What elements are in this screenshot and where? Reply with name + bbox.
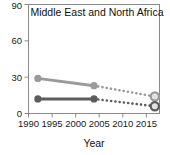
y-tick-label-90: 90	[11, 0, 22, 11]
x-tick-label-2015: 2015	[136, 118, 157, 129]
x-tick-label-2000: 2000	[65, 118, 86, 129]
x-axis-title: Year	[83, 137, 105, 149]
x-tick-label-1990: 1990	[18, 118, 39, 129]
upper-series-marker-2015	[151, 92, 159, 100]
upper-series-marker-2002	[90, 82, 97, 89]
chart-title: Middle East and North Africa	[30, 6, 163, 18]
x-tick-label-2010: 2010	[112, 118, 133, 129]
x-tick-label-1995: 1995	[42, 118, 63, 129]
x-axis-ticks	[29, 114, 147, 118]
y-axis-ticks	[25, 5, 29, 114]
lower-series-marker-2015	[151, 102, 159, 110]
chart-container: 0 30 60 90 1990 1995 2000 2005 2010 2015…	[0, 0, 170, 155]
y-tick-label-30: 30	[11, 72, 22, 83]
lower-series-marker-1990	[34, 95, 41, 102]
y-tick-label-60: 60	[11, 35, 22, 46]
lower-series-marker-2002	[90, 95, 97, 102]
upper-series-marker-1990	[34, 75, 41, 82]
line-chart: 0 30 60 90 1990 1995 2000 2005 2010 2015…	[0, 0, 170, 155]
x-tick-label-2005: 2005	[89, 118, 110, 129]
